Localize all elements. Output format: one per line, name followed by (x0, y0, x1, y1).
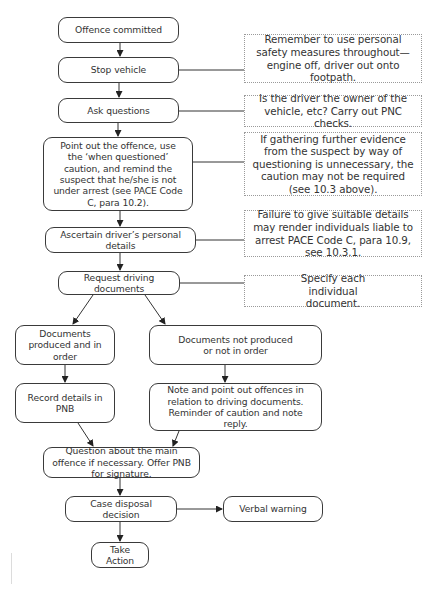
step-documents-not-produced: Documents not produced or not in order (149, 325, 322, 365)
step-documents-produced: Documents produced and in order (15, 325, 115, 365)
step-question-main-offence: Question about the main offence if neces… (43, 447, 200, 478)
note-pnc-checks: Is the driver the owner of the vehicle, … (244, 95, 422, 127)
step-ascertain-details: Ascertain driver’s personal details (45, 227, 196, 253)
arrow-record-to-question (78, 423, 93, 446)
margin-line (11, 553, 12, 584)
arrow-request-to-not-produced (145, 295, 165, 324)
step-verbal-warning: Verbal warning (223, 496, 323, 522)
step-case-disposal: Case disposal decision (65, 496, 177, 522)
step-offence-committed: Offence committed (58, 17, 179, 43)
step-point-out-offence: Point out the offence, use the ‘when que… (43, 137, 193, 211)
note-failure-details: Failure to give suitable details may ren… (244, 210, 422, 257)
note-personal-safety: Remember to use personal safety measures… (244, 34, 422, 83)
step-take-action: Take Action (91, 542, 149, 568)
note-specify-document: Specify each individual document. (244, 275, 422, 307)
arrow-request-to-produced (73, 295, 93, 324)
step-stop-vehicle: Stop vehicle (58, 57, 179, 83)
step-request-documents: Request driving documents (58, 271, 180, 295)
arrow-note-to-question (173, 431, 179, 446)
note-caution-not-required: If gathering further evidence from the s… (244, 132, 422, 196)
step-note-offences: Note and point out offences in relation … (149, 383, 322, 431)
flowchart-canvas: Offence committed Stop vehicle Ask quest… (0, 0, 434, 590)
step-ask-questions: Ask questions (58, 98, 179, 123)
step-record-details: Record details in PNB (15, 383, 115, 423)
